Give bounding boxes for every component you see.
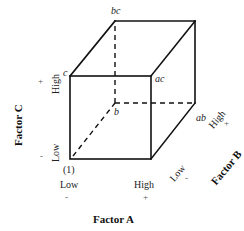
factor-c-low-label: Low bbox=[51, 144, 61, 162]
factor-c-high-sign: + bbox=[38, 77, 43, 86]
vertex-label-bc: bc bbox=[111, 6, 120, 16]
cube-edge-ac-abc bbox=[151, 21, 195, 76]
factor-c-title: Factor C bbox=[13, 104, 24, 146]
vertex-label-origin: (1) bbox=[63, 165, 75, 175]
vertex-label-ac: ac bbox=[155, 74, 164, 84]
cube-edge-c-bc bbox=[70, 21, 115, 76]
vertex-label-c: c bbox=[63, 68, 67, 78]
factor-c-high-label: High bbox=[51, 74, 61, 94]
cube-diagram bbox=[0, 0, 244, 231]
factor-b-high-sign: + bbox=[224, 119, 229, 128]
factor-a-title: Factor A bbox=[93, 214, 134, 225]
cube-front-face bbox=[70, 76, 151, 159]
factor-a-low-sign: - bbox=[65, 193, 68, 202]
factor-b-low-sign: - bbox=[185, 174, 188, 183]
factor-c-low-sign: - bbox=[40, 152, 43, 161]
vertex-label-b: b bbox=[114, 107, 119, 117]
vertex-label-ab: ab bbox=[196, 113, 206, 123]
factor-a-low-label: Low bbox=[60, 180, 78, 190]
cube-hidden-edge-origin-b bbox=[73, 103, 115, 156]
factor-a-high-sign: + bbox=[143, 193, 148, 202]
cube-edge-a-ab bbox=[151, 103, 195, 159]
factor-a-high-label: High bbox=[134, 180, 154, 190]
